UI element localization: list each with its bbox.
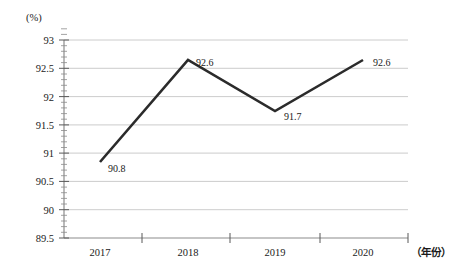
y-tick-label-90-5: 90.5 <box>36 176 54 187</box>
data-label-2018: 92.6 <box>196 57 214 68</box>
y-tick-label-91-5: 91.5 <box>36 120 54 131</box>
x-tick-label-2017: 2017 <box>90 247 111 258</box>
x-tick-label-2019: 2019 <box>265 247 286 258</box>
data-label-2020: 92.6 <box>373 57 391 68</box>
y-tick-label-90: 90 <box>44 205 55 216</box>
data-label-2017: 90.8 <box>108 163 126 174</box>
y-tick-label-93: 93 <box>44 35 55 46</box>
line-chart: (%) 93 92.5 92 91.5 91 90.5 90 89.5 2017… <box>0 0 457 273</box>
x-tick-label-2020: 2020 <box>353 247 374 258</box>
y-tick-label-91: 91 <box>44 148 55 159</box>
y-tick-label-92-5: 92.5 <box>36 63 54 74</box>
chart-canvas: (%) 93 92.5 92 91.5 91 90.5 90 89.5 2017… <box>0 0 457 273</box>
data-label-2019: 91.7 <box>284 111 302 122</box>
x-tick-label-2018: 2018 <box>178 247 199 258</box>
chart-background <box>0 0 457 273</box>
x-axis-title: （年份） <box>411 246 451 258</box>
y-tick-label-89-5: 89.5 <box>36 233 54 244</box>
y-axis-unit-label: (%) <box>26 12 42 24</box>
y-tick-label-92: 92 <box>44 92 55 103</box>
